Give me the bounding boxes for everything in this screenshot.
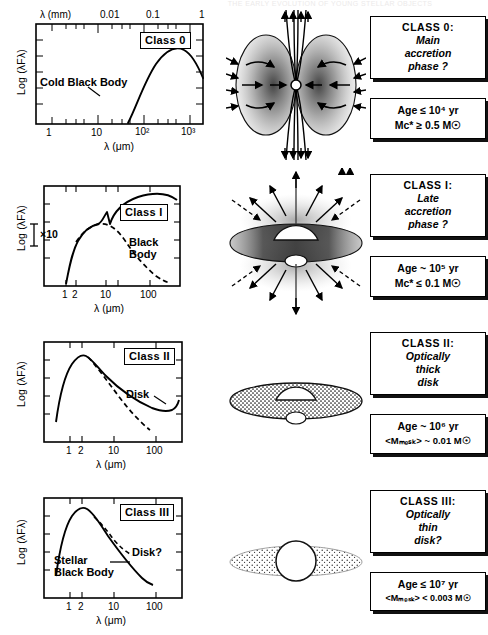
- class-sub-3-1: thin: [373, 521, 483, 534]
- optically-thick-disk-icon: [226, 326, 366, 476]
- boxes-class2: CLASS II: Optically thick disk Age ~ 10⁶…: [370, 326, 486, 476]
- bottom-tick-1: 10: [91, 127, 102, 138]
- class-sub-1-2: phase ?: [373, 218, 483, 231]
- badge-class0: Class 0: [140, 32, 191, 49]
- class-mass-1: Mᴄ* ≤ 0.1 M☉: [373, 276, 483, 291]
- plot-class2: Log (λFλ) Class II Disk 1 2 10 100 λ (μm…: [14, 326, 224, 476]
- x-axis-label: λ (μm): [4, 302, 214, 314]
- plot-class1: Log (λFλ) ×10: [14, 168, 224, 318]
- curve-label-black-body: Black Body: [129, 236, 158, 261]
- class-mass-3: <Mₘₑₛₖ> < 0.003 M☉: [373, 592, 483, 605]
- curve-label-disk: Disk: [126, 388, 149, 400]
- class-sub-0-2: phase ?: [373, 60, 483, 73]
- class-sub-3-2: disk?: [373, 534, 483, 547]
- running-head: THE EARLY EVOLUTION OF YOUNG STELLAR OBJ…: [180, 0, 480, 9]
- bottom-tick-3: 10³: [181, 126, 195, 137]
- class-age-0: Age ≤ 10⁴ yr: [373, 103, 483, 118]
- curve-label-stellar-black-body: Stellar Black Body: [54, 554, 114, 579]
- plot-class0: λ (mm) 0.01 0.1 1 Log (λFλ): [14, 10, 224, 160]
- class-description-box-3: CLASS III: Optically thin disk?: [370, 490, 486, 553]
- scale-marker-x10: ×10: [40, 228, 58, 240]
- curve-label-blackbody: Black Body: [54, 566, 114, 578]
- bottom-tick-0: 1: [66, 445, 72, 456]
- sketch-class2: [226, 326, 366, 476]
- curve-label-disk-q: Disk?: [132, 546, 162, 558]
- bottom-tick-0: 1: [46, 127, 52, 138]
- x-axis-label: λ (μm): [6, 614, 216, 626]
- class-sub-0-1: accretion: [373, 47, 483, 60]
- x-axis-label: λ (μm): [6, 458, 216, 470]
- sketch-class1: [226, 168, 366, 318]
- panel-row-class0: λ (mm) 0.01 0.1 1 Log (λFλ): [0, 10, 488, 160]
- class-sub-2-0: Optically: [373, 350, 483, 363]
- panel-row-class3: Log (λFλ) Class III Disk? Stellar Black …: [0, 484, 488, 634]
- badge-class3: Class III: [120, 504, 174, 521]
- bottom-tick-2: 10: [108, 601, 119, 612]
- panel-row-class2: Log (λFλ) Class II Disk 1 2 10 100 λ (μm…: [0, 326, 488, 476]
- sketch-class0: [226, 10, 366, 160]
- bottom-tick-1: 2: [78, 601, 84, 612]
- class-params-box-2: Age ~ 10⁶ yr <Mₘₑₛₖ> ~ 0.01 M☉: [370, 414, 486, 454]
- plot-class3: Log (λFλ) Class III Disk? Stellar Black …: [14, 484, 224, 634]
- class-title-3: CLASS III:: [373, 495, 483, 508]
- bottom-tick-2: 10²: [135, 126, 149, 137]
- bottom-tick-2: 10: [100, 289, 111, 300]
- class-title-2: CLASS II:: [373, 337, 483, 350]
- class-sub-2-2: disk: [373, 376, 483, 389]
- x-axis-label: λ (μm): [14, 140, 224, 152]
- class-age-1: Age ~ 10⁵ yr: [373, 261, 483, 276]
- plot-svg-class1: [14, 168, 224, 318]
- class-sub-1-1: accretion: [373, 205, 483, 218]
- bottom-tick-0: 1: [66, 601, 72, 612]
- bottom-tick-2: 10: [108, 445, 119, 456]
- curve-label-cold-black-body: Cold Black Body: [40, 76, 127, 88]
- badge-class2: Class II: [124, 348, 175, 365]
- curve-label-stellar: Stellar: [54, 554, 88, 566]
- curve-label-black: Black: [129, 236, 158, 248]
- bottom-tick-1: 2: [78, 445, 84, 456]
- bottom-tick-1: 2: [72, 289, 78, 300]
- class-sub-2-1: thick: [373, 363, 483, 376]
- class-params-box-1: Age ~ 10⁵ yr Mᴄ* ≤ 0.1 M☉: [370, 256, 486, 297]
- class-params-box-3: Age ≤ 10⁷ yr <Mₘₑₛₖ> < 0.003 M☉: [370, 572, 486, 611]
- flared-disk-with-outflow-icon: [226, 168, 366, 318]
- boxes-class0: CLASS 0: Main accretion phase ? Age ≤ 10…: [370, 10, 486, 160]
- sketch-class3: [226, 484, 366, 634]
- class-sub-0-0: Main: [373, 34, 483, 47]
- class-title-0: CLASS 0:: [373, 21, 483, 34]
- class-age-2: Age ~ 10⁶ yr: [373, 419, 483, 434]
- bottom-tick-3: 100: [146, 445, 163, 456]
- class-description-box-2: CLASS II: Optically thick disk: [370, 332, 486, 395]
- badge-class1: Class I: [120, 204, 168, 221]
- bottom-tick-3: 100: [146, 601, 163, 612]
- bipolar-infall-envelope-icon: [226, 10, 366, 160]
- bottom-tick-3: 100: [140, 289, 157, 300]
- class-age-3: Age ≤ 10⁷ yr: [373, 577, 483, 592]
- panel-row-class1: Log (λFλ) ×10: [0, 168, 488, 318]
- optically-thin-disk-icon: [226, 484, 366, 634]
- bottom-tick-0: 1: [62, 289, 68, 300]
- curve-label-body: Body: [129, 248, 157, 260]
- class-description-box-0: CLASS 0: Main accretion phase ?: [370, 16, 486, 79]
- class-mass-0: Mᴄ* ≥ 0.5 M☉: [373, 118, 483, 133]
- class-sub-1-0: Late: [373, 192, 483, 205]
- boxes-class1: CLASS I: Late accretion phase ? Age ~ 10…: [370, 168, 486, 318]
- class-description-box-1: CLASS I: Late accretion phase ?: [370, 174, 486, 237]
- class-sub-3-0: Optically: [373, 508, 483, 521]
- class-mass-2: <Mₘₑₛₖ> ~ 0.01 M☉: [373, 434, 483, 448]
- class-params-box-0: Age ≤ 10⁴ yr Mᴄ* ≥ 0.5 M☉: [370, 98, 486, 139]
- class-title-1: CLASS I:: [373, 179, 483, 192]
- boxes-class3: CLASS III: Optically thin disk? Age ≤ 10…: [370, 484, 486, 634]
